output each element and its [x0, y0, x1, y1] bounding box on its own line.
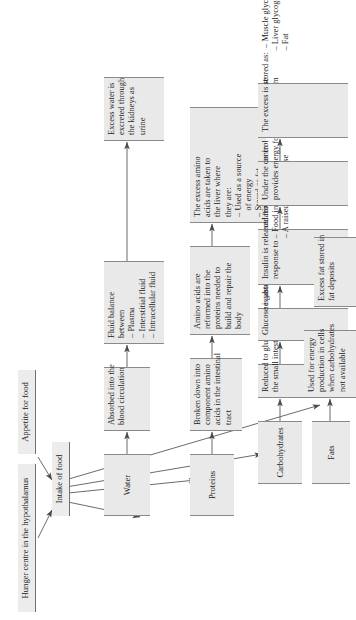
step-line: Amino acids are — [193, 251, 203, 329]
node-appetite-for-food[interactable]: Appetite for food — [18, 370, 36, 454]
step-line: Excess water is — [107, 82, 117, 135]
step-line: acids are taken to — [203, 112, 213, 217]
step-line: provides energy for cell metabolism — [271, 166, 281, 200]
step-carbohydrates-4[interactable]: Under the control of insulin glucose pro… — [258, 161, 348, 206]
step-proteins-1[interactable]: Broken down into component amino acids i… — [190, 358, 242, 431]
step-line: The excess is stored as: – Muscle glycog… — [261, 88, 271, 132]
step-line: excreted through — [117, 82, 127, 135]
step-line: of energy — [244, 112, 254, 217]
step-line: body — [234, 251, 244, 329]
step-water-3[interactable]: Excess water is excreted through the kid… — [104, 77, 164, 141]
step-line: – Intracellular fluid — [148, 266, 158, 338]
step-line: acids in the intestinal — [213, 363, 223, 425]
step-water-2[interactable]: Fluid balance between – Plasma – Interst… — [104, 261, 164, 344]
step-line: between — [117, 266, 127, 338]
step-line: The excess amino — [193, 112, 203, 217]
column-header-proteins[interactable]: Proteins — [190, 454, 234, 516]
step-line: Excess fat stored in — [317, 242, 327, 301]
step-line: proteins needed to — [213, 251, 223, 329]
step-line: component amino — [203, 363, 213, 425]
node-hunger-centre[interactable]: Hunger centre in the hypothalamus — [18, 464, 36, 612]
step-line: the kidneys as — [127, 82, 137, 135]
column-header-carbohydrates[interactable]: Carbohydrates — [258, 421, 302, 484]
step-line: – Interstitial fluid — [138, 266, 148, 338]
step-line: – Plasma — [127, 266, 137, 338]
water-header-label: Water — [122, 475, 132, 495]
rotated-diagram-wrapper: Hunger centre in the hypothalamus Appeti… — [0, 0, 356, 620]
step-line: not available — [338, 335, 348, 392]
step-line: the small intestine — [271, 369, 281, 392]
column-header-water[interactable]: Water — [104, 454, 150, 516]
proteins-header-label: Proteins — [207, 471, 217, 499]
step-line: Used for energy — [307, 335, 317, 392]
step-line: Glucose is absorbed into the circulating… — [261, 313, 271, 335]
step-line: the liver where — [213, 112, 223, 217]
step-line: build and repair the — [224, 251, 234, 329]
step-line: fat deposits — [327, 242, 337, 301]
step-line: Broken down into — [193, 363, 203, 425]
step-water-1[interactable]: Absorbed into the blood circulation — [104, 367, 150, 431]
step-line: tract — [224, 363, 234, 425]
step-line: when carbohydrates — [327, 335, 337, 392]
intake-label: Intake of food — [54, 455, 64, 504]
step-fats-2[interactable]: Excess fat stored in fat deposits — [314, 237, 356, 307]
step-line: Reduced to glucose by the gastric juices… — [261, 369, 271, 392]
step-carbohydrates-5[interactable]: The excess is stored as: – Muscle glycog… — [258, 83, 348, 138]
step-line: – Liver glycogen — [271, 88, 281, 132]
appetite-label: Appetite for food — [20, 382, 30, 442]
step-line: Insulin is released from the pancreas in — [261, 234, 271, 279]
column-header-fats[interactable]: Fats — [312, 421, 350, 484]
step-line: blood circulation — [117, 372, 127, 425]
step-line: – A raised blood glucose — [281, 234, 291, 279]
step-line: Absorbed into the — [107, 372, 117, 425]
flowchart-canvas: Hunger centre in the hypothalamus Appeti… — [0, 0, 356, 620]
step-line: Under the control of insulin glucose — [261, 166, 271, 200]
step-fats-1[interactable]: Used for energy production in cells when… — [304, 330, 356, 398]
fats-header-label: Fats — [326, 445, 336, 459]
step-line: – Used as a source — [234, 112, 244, 217]
step-line: reformed into the — [203, 251, 213, 329]
step-line: – Fat — [281, 88, 291, 132]
step-proteins-2[interactable]: Amino acids are reformed into the protei… — [190, 246, 250, 335]
node-intake-of-food[interactable]: Intake of food — [52, 442, 70, 516]
hunger-centre-label: Hunger centre in the hypothalamus — [20, 478, 30, 599]
carbohydrates-header-label: Carbohydrates — [275, 427, 285, 477]
step-proteins-3[interactable]: The excess amino acids are taken to the … — [190, 107, 266, 223]
step-line: urine — [138, 82, 148, 135]
step-line: response to – Food in the stomach — [271, 234, 281, 279]
step-line: they are: — [224, 112, 234, 217]
step-line: Fluid balance — [107, 266, 117, 338]
step-line: production in cells — [317, 335, 327, 392]
